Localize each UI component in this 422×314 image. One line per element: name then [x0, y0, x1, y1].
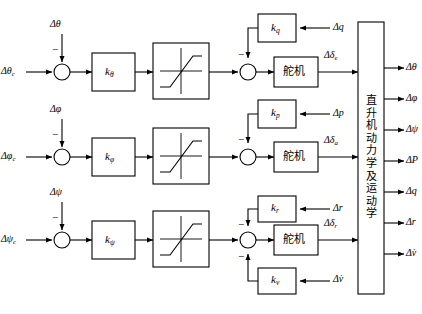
label-command-yaw: Δψc	[1, 234, 16, 246]
gain-label-pitch: kθ	[105, 66, 114, 78]
label-servo-output-roll: Δδa	[324, 135, 338, 147]
label-rate-input-roll: Δp	[333, 108, 344, 118]
rate-gain-label-pitch: kq	[271, 22, 280, 34]
wire-auxgain-to-innersum-yaw	[248, 254, 258, 281]
sum-junction-pitch	[54, 64, 70, 80]
label-rate-input-pitch: Δq	[333, 22, 344, 32]
inner-sum-junction-yaw	[240, 232, 256, 248]
output-label-5: Δq	[406, 186, 417, 196]
label-feedback-yaw: Δψ	[50, 187, 62, 197]
output-label-3: Δψ	[406, 124, 418, 134]
wire-rategain-to-innersum-pitch	[248, 28, 258, 58]
output-label-6: Δr	[406, 217, 416, 227]
wire-rategain-to-innersum-roll	[248, 114, 258, 143]
sign-rate-pitch: −	[238, 49, 244, 60]
diagram-vector-layer	[0, 0, 422, 314]
label-servo-output-yaw: Δδr	[324, 218, 337, 230]
block-diagram-canvas: Δθc Δθ − kθ kq Δq − 舵机 Δδe Δφc Δφ − kφ k…	[0, 0, 422, 314]
servo-label-yaw: 舵机	[283, 234, 305, 245]
output-label-7: Δv̇	[406, 248, 416, 258]
wire-rategain-to-innersum-yaw	[248, 209, 258, 226]
label-rate-input-yaw: Δr	[333, 203, 343, 213]
output-label-2: Δφ	[406, 93, 417, 103]
sign-feedback-pitch: −	[52, 44, 58, 55]
inner-sum-junction-pitch	[240, 64, 256, 80]
label-feedback-pitch: Δθ	[50, 19, 61, 29]
sign-rate-roll: −	[238, 134, 244, 145]
label-servo-output-pitch: Δδe	[324, 50, 338, 62]
output-label-4: ΔP	[406, 155, 418, 165]
sign-aux-yaw: −	[238, 251, 244, 262]
sign-feedback-roll: −	[52, 129, 58, 140]
rate-gain-label-yaw: kr	[271, 202, 279, 214]
label-command-pitch: Δθc	[1, 66, 15, 78]
sign-feedback-yaw: −	[52, 212, 58, 223]
servo-label-roll: 舵机	[283, 151, 305, 162]
output-label-1: Δθ	[406, 62, 417, 72]
inner-sum-junction-roll	[240, 149, 256, 165]
gain-label-roll: kφ	[105, 151, 114, 163]
label-aux-input-yaw: Δv̇	[333, 274, 343, 284]
sign-rate-yaw: −	[238, 219, 244, 230]
gain-label-yaw: kψ	[105, 234, 115, 246]
aux-gain-label-yaw: kv	[271, 274, 279, 286]
servo-label-pitch: 舵机	[283, 66, 305, 77]
label-command-roll: Δφc	[1, 151, 16, 163]
rate-gain-label-roll: kp	[271, 107, 280, 119]
plant-label: 直 升 机 动 力 学 及 运 动 学	[360, 95, 382, 221]
label-feedback-roll: Δφ	[50, 104, 61, 114]
sum-junction-roll	[54, 149, 70, 165]
sum-junction-yaw	[54, 232, 70, 248]
